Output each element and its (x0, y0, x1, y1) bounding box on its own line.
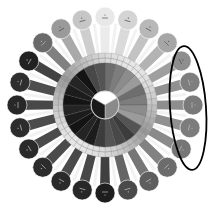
swatch-label-dot (14, 104, 15, 105)
hue-swatch (95, 183, 115, 203)
hue-swatch (72, 10, 92, 30)
hue-swatch (139, 19, 159, 39)
hue-swatch (139, 171, 159, 191)
hue-swatch (19, 51, 39, 71)
hue-swatch (183, 95, 203, 115)
color-wheel-svg (0, 0, 209, 211)
hue-swatch (19, 139, 39, 159)
swatch-label-dot (194, 104, 195, 105)
spoke-gap (94, 24, 98, 54)
spoke-gap (112, 157, 116, 187)
hue-swatch (118, 180, 138, 200)
hue-swatch (171, 51, 191, 71)
hue-swatch (157, 33, 177, 53)
swatch-label-dot (104, 14, 105, 15)
hue-swatch (180, 118, 200, 138)
hue-swatch (180, 72, 200, 92)
spoke-gap (112, 24, 116, 54)
color-wheel-diagram (0, 0, 209, 211)
hue-swatch (7, 95, 27, 115)
spoke-gap (94, 157, 98, 187)
hue-swatch (51, 19, 71, 39)
hue-swatch (10, 72, 30, 92)
hue-swatch (10, 118, 30, 138)
hue-swatch (33, 33, 53, 53)
hue-swatch (95, 7, 115, 27)
spoke-gap (24, 94, 54, 98)
spoke-gap (157, 94, 187, 98)
hue-swatch (33, 157, 53, 177)
hue-swatch (118, 10, 138, 30)
hue-swatch (157, 157, 177, 177)
hue-swatch (51, 171, 71, 191)
spoke-gap (24, 112, 54, 116)
swatch-label-dot (104, 194, 105, 195)
hue-swatch (72, 180, 92, 200)
